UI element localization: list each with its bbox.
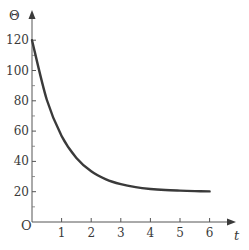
y-tick-label: 60 bbox=[14, 124, 29, 138]
y-tick-label: 20 bbox=[14, 185, 29, 199]
x-axis-arrow-icon bbox=[227, 219, 236, 226]
x-tick-label: 1 bbox=[58, 226, 66, 240]
y-tick-label: 80 bbox=[14, 94, 29, 108]
x-tick-label: 4 bbox=[147, 226, 155, 240]
x-tick-label: 5 bbox=[176, 226, 184, 240]
x-tick-label: 2 bbox=[87, 226, 95, 240]
origin-label: O bbox=[21, 218, 32, 233]
x-tick-label: 3 bbox=[117, 226, 125, 240]
y-tick-label: 100 bbox=[6, 64, 29, 78]
x-ticks: 123456 bbox=[58, 218, 214, 240]
x-tick-label: 6 bbox=[206, 226, 214, 240]
y-tick-label: 120 bbox=[6, 33, 29, 47]
x-axis-label: t bbox=[234, 228, 240, 243]
chart: 123456 20406080100120 Θ t O bbox=[0, 0, 249, 250]
y-axis-label: Θ bbox=[9, 8, 20, 23]
data-curve bbox=[32, 40, 210, 191]
y-tick-label: 40 bbox=[14, 154, 29, 168]
y-axis-arrow-icon bbox=[29, 10, 36, 19]
